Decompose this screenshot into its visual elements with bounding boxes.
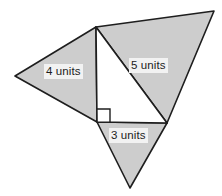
- label-5-units: 5 units: [129, 58, 168, 73]
- label-4-units: 4 units: [44, 64, 83, 79]
- label-3-units: 3 units: [109, 128, 148, 143]
- composite-triangle-diagram: [0, 0, 222, 196]
- figure-canvas: 4 units 5 units 3 units: [0, 0, 222, 196]
